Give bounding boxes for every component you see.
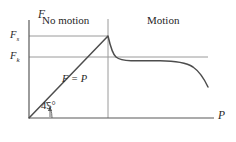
friction-force-diagram: F P No motion Motion Fs Fk F = P 45°	[0, 0, 236, 142]
angle-label: 45°	[41, 101, 56, 112]
tick-label-kinetic-friction: Fk	[10, 51, 20, 64]
tick-label-static-friction: Fs	[10, 30, 19, 43]
static-friction-subscript: s	[16, 35, 19, 43]
friction-force-curve	[29, 36, 208, 118]
region-label-motion: Motion	[147, 15, 179, 26]
line-equation-label: F = P	[62, 74, 87, 85]
figure-canvas	[0, 0, 236, 142]
x-axis-label: P	[218, 110, 225, 122]
kinetic-friction-subscript: k	[16, 56, 19, 64]
region-label-no-motion: No motion	[42, 15, 89, 26]
